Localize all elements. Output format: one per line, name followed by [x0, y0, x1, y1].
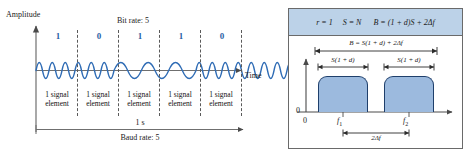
carrier-f1-sub: 1 [339, 121, 342, 127]
separation-label: 2Δf [343, 135, 409, 142]
carrier-f2-sub: 2 [405, 121, 408, 127]
signal-element-line1: 1 signal [119, 90, 159, 99]
x-origin-label: 0 [303, 117, 307, 125]
signal-element-3: 1 signal element [160, 90, 200, 109]
signal-element-line2: element [37, 99, 77, 108]
signal-element-1: 1 signal element [78, 90, 118, 109]
signal-element-line2: element [201, 99, 241, 108]
measure-svg [289, 9, 464, 150]
signal-element-line1: 1 signal [201, 90, 241, 99]
bit-value-2: 1 [136, 32, 144, 41]
bit-value-0: 1 [54, 32, 62, 41]
bit-value-4: 0 [218, 32, 226, 41]
signal-element-2: 1 signal element [119, 90, 159, 109]
signal-element-4: 1 signal element [201, 90, 241, 109]
fsk-figure: Amplitude Bit rate: 5 [0, 0, 474, 161]
signal-element-line2: element [119, 99, 159, 108]
bit-value-3: 1 [177, 32, 185, 41]
bit-separator [241, 30, 242, 116]
signal-element-line2: element [160, 99, 200, 108]
signal-element-line1: 1 signal [78, 90, 118, 99]
baud-rate-label: Baud rate: 5 [0, 134, 280, 142]
y-origin-label: 0 [296, 107, 300, 115]
spectrum-lobe-f2 [384, 76, 434, 112]
waveform-panel: Amplitude Bit rate: 5 [0, 0, 288, 161]
carrier-f2-label: f2 [403, 117, 408, 127]
spectrum-lobe-f1 [318, 76, 368, 112]
signal-element-line2: element [78, 99, 118, 108]
signal-element-line1: 1 signal [160, 90, 200, 99]
lobe-label-right: S(1 + d) [384, 57, 434, 64]
bandwidth-panel: r = 1 S = N B = (1 + d)S + 2Δf B = S(1 +… [288, 8, 463, 149]
signal-element-line1: 1 signal [37, 90, 77, 99]
carrier-f1-label: f1 [337, 117, 342, 127]
signal-element-0: 1 signal element [37, 90, 77, 109]
lobe-label-left: S(1 + d) [318, 57, 368, 64]
duration-label: 1 s [0, 119, 280, 127]
bit-value-1: 0 [95, 32, 103, 41]
time-axis-label: Time [245, 72, 262, 80]
